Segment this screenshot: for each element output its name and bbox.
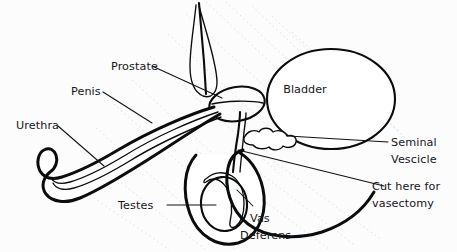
leader-prostate xyxy=(152,66,222,98)
label-cut-here-line1: Cut here for xyxy=(372,180,440,193)
leader-penis xyxy=(103,92,152,123)
label-vas-deferens-line1: Vas xyxy=(250,212,270,225)
label-penis: Penis xyxy=(71,85,101,98)
pubic-tissue-tuft xyxy=(190,3,217,97)
label-seminal-vesicle-line1: Seminal xyxy=(391,136,437,149)
label-seminal-vesicle-line2: Vescicle xyxy=(391,153,437,166)
label-prostate: Prostate xyxy=(111,60,158,73)
leader-urethra xyxy=(58,126,104,166)
label-testes: Testes xyxy=(117,199,153,212)
label-cut-here-line2: vasectomy xyxy=(372,197,434,210)
label-urethra: Urethra xyxy=(16,119,59,132)
bladder-label: Bladder xyxy=(283,83,327,96)
anatomy-diagram-figure: Bladder xyxy=(0,0,457,252)
anatomy-diagram-canvas: Bladder xyxy=(0,0,457,252)
label-vas-deferens-line2: Deferens xyxy=(240,229,291,242)
